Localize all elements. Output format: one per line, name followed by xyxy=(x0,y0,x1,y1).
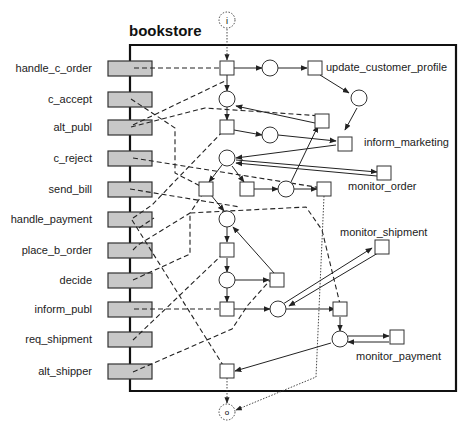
place[interactable] xyxy=(332,331,348,347)
interface-label-c-accept: c_accept xyxy=(0,93,92,106)
task-box-alt-shipper[interactable] xyxy=(108,364,152,379)
task-box-place-b-order[interactable] xyxy=(108,243,152,258)
place[interactable] xyxy=(351,90,367,106)
transition-send-bill[interactable] xyxy=(317,182,331,196)
place[interactable] xyxy=(219,91,235,107)
place[interactable] xyxy=(219,211,235,227)
place-o-label: o xyxy=(225,408,230,417)
interface-label-send-bill: send_bill xyxy=(0,183,92,196)
place-i-label: i xyxy=(226,16,228,26)
task-box-decide[interactable] xyxy=(108,273,152,288)
task-box-req-shipment[interactable] xyxy=(108,332,152,347)
transition-monitor-shipment[interactable] xyxy=(375,240,389,254)
transition-monitor-payment[interactable] xyxy=(390,330,404,344)
transition-monitor-order[interactable] xyxy=(377,166,391,180)
place[interactable] xyxy=(278,181,294,197)
arcs xyxy=(209,68,389,371)
task-box-c-accept[interactable] xyxy=(108,92,152,107)
transition-inform-marketing[interactable] xyxy=(338,137,352,151)
task-box-alt-publ[interactable] xyxy=(108,120,152,135)
interface-label-handle-c-order: handle_c_order xyxy=(0,62,92,75)
interface-label-place-b-order: place_b_order xyxy=(0,244,92,257)
interface-label-alt-publ: alt_publ xyxy=(0,121,92,134)
transition-update-customer-profile[interactable] xyxy=(308,61,322,75)
transition-c-reject[interactable] xyxy=(199,182,213,196)
label-inform-marketing: inform_marketing xyxy=(364,136,449,149)
place[interactable] xyxy=(262,60,278,76)
task-box-c-reject[interactable] xyxy=(108,151,152,166)
place[interactable] xyxy=(219,272,235,288)
transition-c-accept[interactable] xyxy=(315,114,329,128)
transition-decide[interactable] xyxy=(270,273,284,287)
place[interactable] xyxy=(270,301,286,317)
label-monitor-shipment: monitor_shipment xyxy=(340,226,427,239)
interface-label-handle-payment: handle_payment xyxy=(0,213,92,226)
interface-label-req-shipment: req_shipment xyxy=(0,333,92,346)
transition-alt-publ[interactable] xyxy=(220,120,234,134)
transition-handle-c-order[interactable] xyxy=(220,61,234,75)
label-update-customer-profile: update_customer_profile xyxy=(326,61,447,74)
task-box-handle-payment[interactable] xyxy=(108,212,152,227)
transition-alt-shipper[interactable] xyxy=(220,364,234,378)
label-monitor-payment: monitor_payment xyxy=(356,350,441,363)
place[interactable] xyxy=(219,150,235,166)
interface-label-c-reject: c_reject xyxy=(0,152,92,165)
place[interactable] xyxy=(262,127,278,143)
bookstore-frame xyxy=(130,45,456,391)
transition-inform-publ[interactable] xyxy=(220,302,234,316)
label-monitor-order: monitor_order xyxy=(348,180,416,193)
interface-label-alt-shipper: alt_shipper xyxy=(0,365,92,378)
interface-label-decide: decide xyxy=(0,274,92,287)
transition-place-b-order[interactable] xyxy=(220,243,234,257)
diagram-title: bookstore xyxy=(129,22,202,39)
transition-req-shipment[interactable] xyxy=(333,302,347,316)
transition-handle-payment[interactable] xyxy=(240,182,254,196)
interface-label-inform-publ: inform_publ xyxy=(0,303,92,316)
